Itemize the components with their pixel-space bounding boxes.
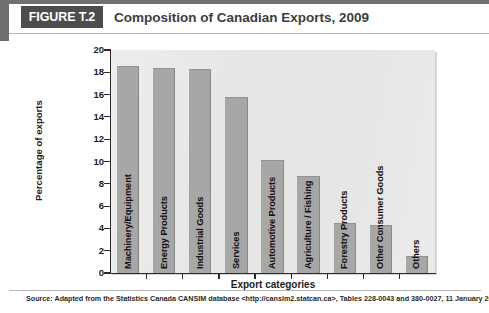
- bar-category-label: Energy Products: [159, 196, 169, 269]
- bar: Industrial Goods: [189, 69, 211, 273]
- y-axis-tick-label-wrap: 6: [78, 201, 104, 211]
- bar-category-label: Forestry Products: [339, 191, 349, 269]
- bar: Automotive Products: [261, 160, 283, 273]
- y-axis-tick: [104, 161, 111, 162]
- y-axis-tick: [104, 116, 111, 117]
- y-axis-tick-label: 18: [82, 67, 104, 77]
- y-axis-tick: [104, 228, 111, 229]
- y-axis-tick: [104, 72, 111, 73]
- y-axis-tick-label-wrap: 2: [78, 246, 104, 256]
- y-axis-tick-label: 6: [82, 201, 104, 211]
- y-axis-tick-label-wrap: 10: [78, 157, 104, 167]
- y-axis-tick-label: 4: [82, 223, 104, 233]
- y-axis-tick-label: 12: [82, 134, 104, 144]
- bar: Machinery/Equipment: [117, 66, 139, 273]
- bar-category-label: Automotive Products: [267, 177, 277, 269]
- y-axis-tick: [104, 49, 111, 50]
- chart-canvas: 02468101214161820 Machinery/EquipmentEne…: [0, 41, 489, 289]
- footer-rule: [9, 290, 481, 291]
- bar: Others: [406, 256, 428, 273]
- y-axis-tick-label-wrap: 20: [78, 45, 104, 55]
- bar: Forestry Products: [334, 223, 356, 273]
- x-axis-title: Export categories: [110, 279, 436, 290]
- y-axis-tick-label-wrap: 14: [78, 112, 104, 122]
- figure-number-badge: FIGURE T.2: [21, 6, 103, 28]
- y-axis-tick: [104, 250, 111, 251]
- bar: Agriculture / Fishing: [297, 176, 319, 273]
- header-left-tab: [0, 4, 9, 41]
- y-axis-tick-label-wrap: 12: [78, 134, 104, 144]
- y-axis-tick: [104, 139, 111, 140]
- header-bottom-rule: [9, 33, 489, 34]
- bar: Other Consumer Goods: [370, 225, 392, 273]
- y-axis-tick-label: 20: [82, 45, 104, 55]
- y-axis-tick-label: 8: [82, 179, 104, 189]
- y-axis-tick-label: 10: [82, 157, 104, 167]
- y-axis-tick-label-wrap: 8: [78, 179, 104, 189]
- bar-category-label: Others: [411, 240, 421, 269]
- bar-category-label: Services: [231, 232, 241, 269]
- bar-category-label: Machinery/Equipment: [123, 174, 133, 269]
- y-axis-tick-label-wrap: 4: [78, 223, 104, 233]
- figure-root: FIGURE T.2 Composition of Canadian Expor…: [0, 0, 489, 313]
- y-axis-tick-label-wrap: 16: [78, 90, 104, 100]
- bar: Services: [225, 97, 247, 273]
- y-axis-tick-label: 14: [82, 112, 104, 122]
- y-axis-tick: [104, 272, 111, 273]
- y-axis-tick-label: 2: [82, 246, 104, 256]
- bar-category-label: Agriculture / Fishing: [303, 181, 313, 269]
- bar-category-label: Other Consumer Goods: [375, 166, 385, 269]
- y-axis-tick: [104, 94, 111, 95]
- figure-title: Composition of Canadian Exports, 2009: [114, 7, 474, 29]
- figure-header: FIGURE T.2 Composition of Canadian Expor…: [0, 0, 489, 41]
- y-axis-tick-label-wrap: 18: [78, 67, 104, 77]
- y-axis-tick-label: 0: [82, 268, 104, 278]
- header-top-rule: [0, 0, 489, 4]
- bar: Energy Products: [153, 68, 175, 273]
- source-note: Source: Adapted from the Statistics Cana…: [26, 294, 478, 303]
- y-axis-tick-label: 16: [82, 90, 104, 100]
- y-axis-title: Percentage of exports: [33, 91, 44, 211]
- y-axis-tick-label-wrap: 0: [78, 268, 104, 278]
- y-axis-tick: [104, 206, 111, 207]
- y-axis-tick: [104, 183, 111, 184]
- bar-category-label: Industrial Goods: [195, 197, 205, 269]
